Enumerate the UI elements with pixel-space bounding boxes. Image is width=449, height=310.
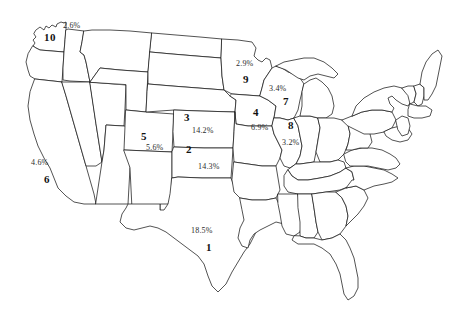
region-percent-10: 2.6%: [63, 21, 80, 30]
state-oregon: [26, 46, 64, 82]
state-massachusetts-ri-ct: [408, 104, 432, 118]
region-percent-7: 3.4%: [269, 84, 286, 93]
state-new-mexico: [124, 150, 172, 210]
region-percent-9: 2.9%: [236, 59, 253, 68]
region-number-1: 1: [206, 241, 212, 253]
state-florida: [292, 234, 358, 300]
us-map-outlines: [0, 0, 449, 310]
region-percent-5: 5.6%: [146, 143, 163, 152]
region-percent-8: 3.2%: [282, 138, 299, 147]
state-michigan-lower: [300, 78, 334, 118]
region-number-5: 5: [141, 130, 147, 142]
region-number-4: 4: [253, 106, 259, 118]
region-percent-3: 14.2%: [192, 126, 214, 135]
us-region-map: 1 18.5% 2 14.3% 3 14.2% 4 6.9% 5 5.6% 6 …: [0, 0, 449, 310]
state-new-hampshire: [414, 84, 424, 106]
region-percent-2: 14.3%: [198, 162, 220, 171]
state-arkansas: [232, 162, 280, 200]
region-number-7: 7: [283, 95, 289, 107]
region-number-10: 10: [44, 31, 56, 43]
state-south-dakota: [148, 52, 224, 90]
region-number-6: 6: [44, 173, 50, 185]
region-number-8: 8: [288, 119, 294, 131]
region-number-2: 2: [186, 143, 192, 155]
region-number-3: 3: [184, 111, 190, 123]
region-percent-6: 4.6%: [31, 158, 48, 167]
region-percent-4: 6.9%: [251, 123, 268, 132]
region-percent-1: 18.5%: [191, 226, 213, 235]
region-number-9: 9: [243, 73, 249, 85]
